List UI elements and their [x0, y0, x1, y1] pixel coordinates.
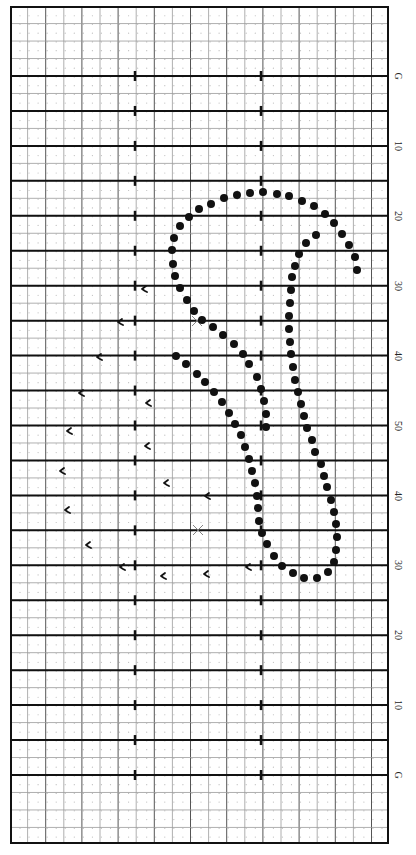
performer-dot	[320, 472, 328, 480]
drill-chart: G102030405040302010G	[0, 0, 416, 855]
performer-dot	[289, 363, 297, 371]
performer-dot	[245, 455, 253, 463]
yard-label: 50	[393, 421, 404, 431]
performer-dot	[169, 260, 177, 268]
performer-dot	[298, 197, 306, 205]
performer-dot	[287, 286, 295, 294]
performer-dot	[289, 569, 297, 577]
performer-dot	[262, 423, 270, 431]
performer-dot	[185, 213, 193, 221]
yard-label: 10	[393, 700, 404, 710]
performer-dot	[251, 479, 259, 487]
hook-mark-icon	[164, 480, 169, 486]
performer-dot	[263, 540, 271, 548]
performer-dot	[225, 409, 233, 417]
performer-dot	[286, 338, 294, 346]
performer-dot	[323, 483, 331, 491]
performer-dot	[220, 194, 228, 202]
performer-dot	[258, 529, 266, 537]
yard-label: 30	[393, 560, 404, 570]
performer-dot	[285, 312, 293, 320]
performer-dot	[300, 574, 308, 582]
yard-lines	[11, 76, 388, 775]
performer-dot	[353, 266, 361, 274]
performer-dot	[300, 412, 308, 420]
hook-mark-icon	[161, 573, 166, 579]
performer-dot	[270, 552, 278, 560]
performer-dot	[233, 191, 241, 199]
yard-label: G	[393, 72, 404, 79]
performer-dot	[259, 188, 267, 196]
performer-dot	[288, 273, 296, 281]
yard-label: 20	[393, 630, 404, 640]
hook-mark-icon	[86, 542, 91, 548]
performer-dot	[255, 517, 263, 525]
performer-dot	[312, 231, 320, 239]
performer-dot	[317, 460, 325, 468]
performer-dot	[176, 284, 184, 292]
performer-dot	[351, 253, 359, 261]
performer-dot	[327, 496, 335, 504]
performer-dot	[209, 323, 217, 331]
yard-label: 20	[393, 211, 404, 221]
performer-dot	[257, 385, 265, 393]
performer-dot	[253, 373, 261, 381]
performer-dot	[183, 296, 191, 304]
performer-dot	[262, 410, 270, 418]
performer-dot	[170, 234, 178, 242]
performer-dot	[278, 562, 286, 570]
performer-dot	[330, 219, 338, 227]
performer-dot	[201, 378, 209, 386]
yard-label: 10	[393, 141, 404, 151]
performer-dot	[171, 272, 179, 280]
performer-dot	[230, 340, 238, 348]
performer-dot	[182, 360, 190, 368]
performer-dot	[286, 299, 294, 307]
performer-dot	[291, 262, 299, 270]
performer-dot	[239, 350, 247, 358]
performer-dot	[310, 202, 318, 210]
yard-label: 30	[393, 281, 404, 291]
performer-dot	[193, 370, 201, 378]
performer-dot	[254, 504, 262, 512]
hook-mark-icon	[67, 428, 72, 434]
performer-dot	[294, 388, 302, 396]
performer-dot	[245, 360, 253, 368]
performer-dot	[302, 239, 310, 247]
performer-dot	[338, 230, 346, 238]
yard-label: 40	[393, 491, 404, 501]
performer-dot	[190, 307, 198, 315]
performer-dot	[260, 397, 268, 405]
hook-mark-icon	[142, 286, 147, 292]
hook-mark-icon	[60, 468, 65, 474]
performer-dot	[313, 574, 321, 582]
yard-label: 40	[393, 351, 404, 361]
performer-dot	[172, 352, 180, 360]
hook-mark-icon	[65, 507, 70, 513]
performer-dot	[253, 492, 261, 500]
performer-dot	[176, 222, 184, 230]
performer-dot	[324, 568, 332, 576]
performer-dot	[285, 192, 293, 200]
performer-dot	[287, 350, 295, 358]
performer-dot	[295, 250, 303, 258]
performer-dot	[210, 388, 218, 396]
performer-dot	[248, 467, 256, 475]
performer-dot	[198, 316, 206, 324]
performer-dot	[345, 241, 353, 249]
performer-dot	[246, 189, 254, 197]
performer-dot	[218, 398, 226, 406]
performer-dot	[168, 246, 176, 254]
yard-label: G	[393, 771, 404, 778]
performer-dot	[285, 325, 293, 333]
performer-dot	[330, 508, 338, 516]
performer-dot	[237, 431, 245, 439]
performer-dot	[332, 546, 340, 554]
performer-dot	[219, 331, 227, 339]
performer-dot	[195, 205, 203, 213]
performer-dot	[273, 190, 281, 198]
performer-dot	[321, 210, 329, 218]
performer-dot	[231, 420, 239, 428]
hook-mark-icon	[146, 400, 151, 406]
performer-dot	[297, 400, 305, 408]
